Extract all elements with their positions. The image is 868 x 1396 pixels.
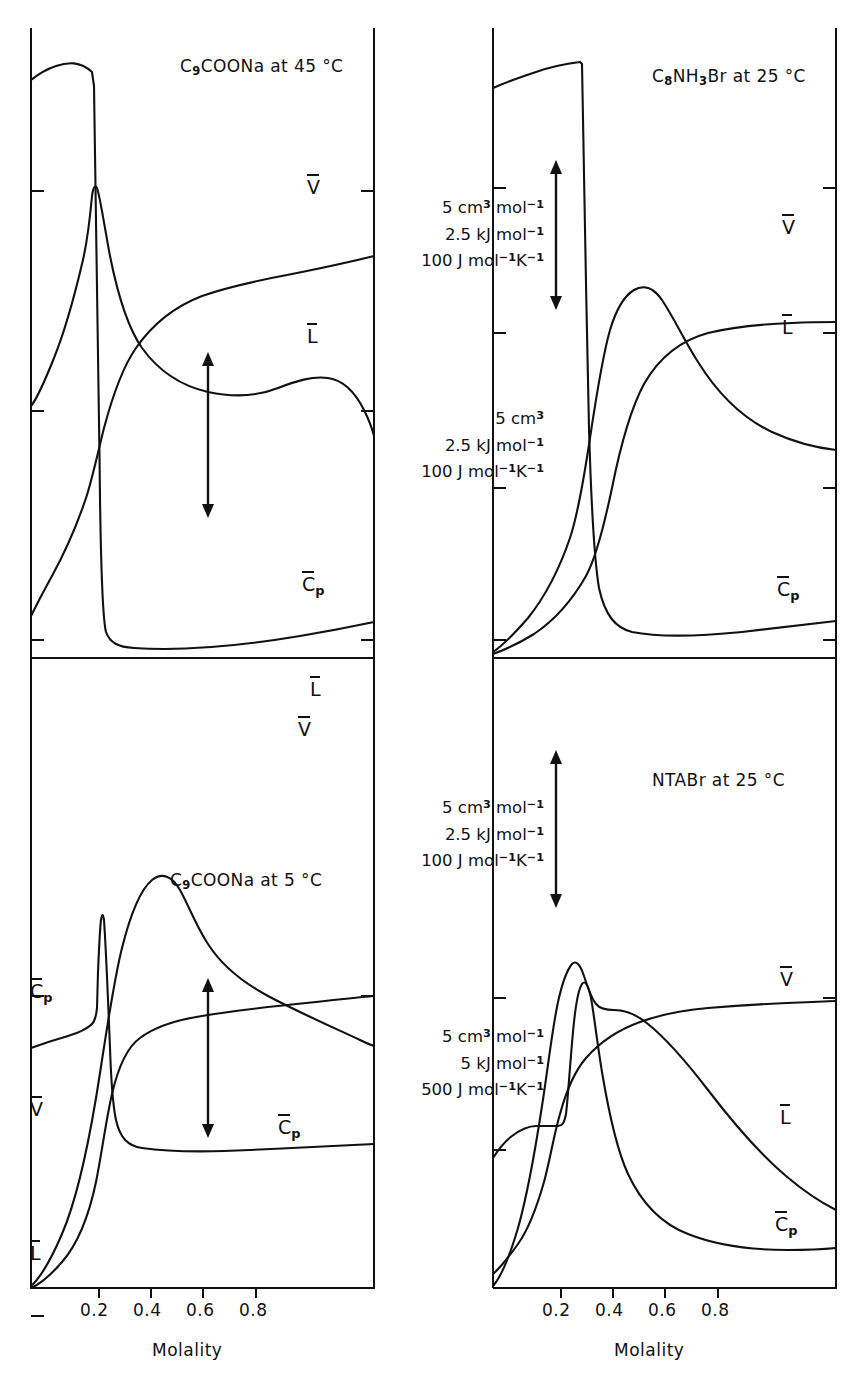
curve-label-cp-top-left: Cp: [302, 573, 325, 598]
scale-bar-1-arrow: [546, 160, 566, 310]
curve-label-v-top-right: V: [782, 216, 795, 238]
x-tick-label-left-3: 0.6: [186, 1300, 215, 1320]
scale-bar-4-text: 5 cm3 mol−1 5 kJ mol−1 500 J mol−1K−1: [396, 1024, 544, 1104]
scale-bar-2-arrow: [198, 352, 218, 518]
curve-label-l-bottom-left: L: [310, 678, 321, 700]
x-tick-label-right-4: 0.8: [701, 1300, 730, 1320]
scale-bar-2-line-3: 100 J mol−1K−1: [396, 459, 544, 486]
scale-bar-3-arrow: [546, 750, 566, 908]
curve-label-cp-top-right: Cp: [777, 578, 800, 603]
scale-bar-2-line-2: 2.5 kJ mol−1: [396, 433, 544, 460]
x-tick-label-left-2: 0.4: [133, 1300, 162, 1320]
curve-label-l2-bottom-left: L: [30, 1242, 41, 1264]
panel-title-text: C8NH3Br at 25 °C: [652, 66, 806, 86]
panel-title-top-right: C8NH3Br at 25 °C: [652, 66, 806, 88]
curve-label-v-bottom-left: V: [298, 718, 311, 740]
panel-bottom-left: C9COONa at 5 °C L V Cp V L Cp: [30, 658, 375, 1288]
scale-bar-3-line-2: 2.5 kJ mol−1: [396, 822, 544, 849]
scale-bar-4-line-3: 500 J mol−1K−1: [396, 1077, 544, 1104]
panel-title-bottom-right: NTABr at 25 °C: [652, 770, 785, 790]
x-axis-label-left: Molality: [152, 1340, 222, 1360]
curve-label-l-top-left: L: [307, 325, 318, 347]
axis-left-ticks: [31, 191, 44, 640]
panel-top-left-plot: [30, 28, 375, 658]
scale-bar-2-text: 5 cm3 2.5 kJ mol−1 100 J mol−1K−1: [396, 406, 544, 486]
scale-bar-2-line-1: 5 cm3: [396, 406, 544, 433]
scale-bar-1-line-2: 2.5 kJ mol−1: [396, 222, 544, 249]
x-tick-label-right-3: 0.6: [648, 1300, 677, 1320]
curve-label-cp-bottom-right: Cp: [775, 1213, 798, 1238]
scale-bar-1-line-3: 100 J mol−1K−1: [396, 248, 544, 275]
panel-top-left: C9COONa at 45 °C V L Cp: [30, 28, 375, 658]
curve-label-v-bottom-right: V: [780, 968, 793, 990]
scale-bar-3-line-1: 5 cm3 mol−1: [396, 795, 544, 822]
scale-bar-4-arrow: [198, 978, 218, 1138]
panel-top-right: C8NH3Br at 25 °C V L Cp: [492, 28, 837, 658]
scale-bar-1-line-1: 5 cm3 mol−1: [396, 195, 544, 222]
curve-label-l-bottom-right: L: [780, 1106, 791, 1128]
x-axis-label-right: Molality: [614, 1340, 684, 1360]
scale-bar-1-text: 5 cm3 mol−1 2.5 kJ mol−1 100 J mol−1K−1: [396, 195, 544, 275]
panel-title-top-left: C9COONa at 45 °C: [180, 56, 343, 78]
panel-title-text: C9COONa at 5 °C: [170, 870, 322, 890]
panel-title-bottom-left: C9COONa at 5 °C: [170, 870, 322, 892]
curve-v-top-right: [493, 322, 836, 654]
scale-bar-4-line-2: 5 kJ mol−1: [396, 1051, 544, 1078]
figure-root: C9COONa at 45 °C V L Cp C8NH3Br at 25 °C…: [0, 0, 868, 1396]
panel-bottom-left-plot: [30, 658, 375, 1288]
scale-bar-3-text: 5 cm3 mol−1 2.5 kJ mol−1 100 J mol−1K−1: [396, 795, 544, 875]
axis-right-ticks: [823, 188, 836, 640]
curve-label-v2-bottom-left: V: [30, 1098, 43, 1120]
curve-cp-top-right: [493, 62, 836, 636]
x-tick-label-left-4: 0.8: [239, 1300, 268, 1320]
x-tick-label-right-2: 0.4: [595, 1300, 624, 1320]
x-tick-label-right-1: 0.2: [542, 1300, 571, 1320]
panel-top-right-plot: [492, 28, 837, 658]
panel-title-text: NTABr at 25 °C: [652, 770, 785, 790]
panel-bottom-right: NTABr at 25 °C V L Cp: [492, 658, 837, 1288]
curve-label-cp-bottom-left: Cp: [30, 980, 53, 1005]
scale-bar-4-line-1: 5 cm3 mol−1: [396, 1024, 544, 1051]
scale-bar-3-line-3: 100 J mol−1K−1: [396, 848, 544, 875]
curve-label-cp2-bottom-left: Cp: [278, 1116, 301, 1141]
panel-title-text: C9COONa at 45 °C: [180, 56, 343, 76]
curve-label-v-top-left: V: [307, 176, 320, 198]
x-tick-label-left-1: 0.2: [80, 1300, 109, 1320]
curve-label-l-top-right: L: [782, 316, 793, 338]
